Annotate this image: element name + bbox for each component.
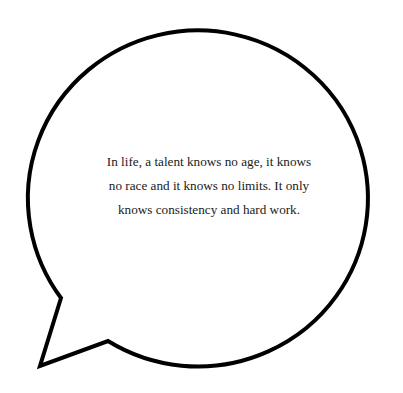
quote-text: In life, a talent knows no age, it knows… [104, 150, 314, 222]
